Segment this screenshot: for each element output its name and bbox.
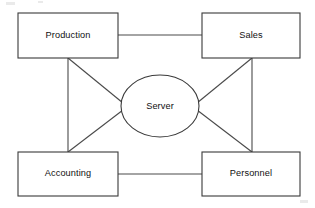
node-sales-label: Sales <box>239 30 263 40</box>
scan-artifact <box>38 1 43 3</box>
scan-artifact <box>6 2 15 5</box>
edge-accounting-server[interactable] <box>68 110 123 152</box>
node-accounting[interactable]: Accounting <box>18 152 118 196</box>
edge-production-server[interactable] <box>68 58 123 103</box>
node-personnel[interactable]: Personnel <box>202 152 300 196</box>
node-layer: Production Sales Accounting Personnel Se… <box>18 13 300 196</box>
scan-artifact <box>300 200 308 203</box>
diagram-canvas: Production Sales Accounting Personnel Se… <box>0 0 315 208</box>
edge-sales-server[interactable] <box>197 58 252 103</box>
node-sales[interactable]: Sales <box>202 13 300 58</box>
node-accounting-label: Accounting <box>45 168 91 178</box>
node-personnel-label: Personnel <box>230 168 272 178</box>
node-production[interactable]: Production <box>18 13 118 58</box>
node-server[interactable]: Server <box>121 75 199 137</box>
node-production-label: Production <box>46 30 91 40</box>
edge-personnel-server[interactable] <box>197 110 252 152</box>
network-diagram: Production Sales Accounting Personnel Se… <box>0 0 315 208</box>
node-server-label: Server <box>146 101 174 111</box>
